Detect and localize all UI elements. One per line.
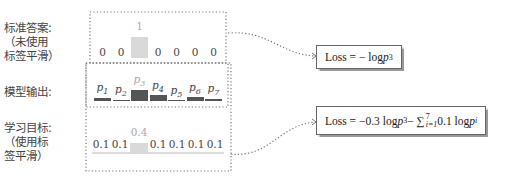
model-cell: p4 (150, 79, 167, 101)
gold-row: 0 0 1 0 0 0 0 (94, 20, 222, 58)
model-cell: p6 (187, 79, 204, 101)
target-row: 0.1 0.1 0.4 0.1 0.1 0.1 0.1 (92, 129, 224, 154)
sum-limits: 7i=1 (426, 113, 438, 129)
sum-symbol: − ∑ (407, 115, 425, 127)
loss-box-smoothed: Loss = −0.3 log p3 − ∑7i=1 0.1 log pi (316, 106, 486, 135)
connectors (0, 0, 522, 180)
model-cell: p5 (168, 79, 185, 101)
target-cell: 0.1 (149, 129, 167, 154)
gold-cell: 0 (187, 46, 204, 58)
loss-box-hard: Loss = − log p3 (316, 45, 402, 69)
model-cell: p1 (94, 79, 111, 101)
loss-text: 0.1 log (437, 115, 469, 127)
target-cell-highlight: 0.4 (130, 129, 148, 154)
target-cell: 0.1 (92, 129, 110, 154)
arrow-top (228, 33, 316, 56)
model-row: p1 p2 p3 p4 p5 p6 p7 (94, 79, 222, 101)
gold-cell-highlight: 1 (131, 20, 148, 58)
arrow-bottom (231, 122, 316, 154)
loss-sub: i (475, 116, 477, 125)
loss-sub: 3 (389, 53, 393, 62)
gold-cell: 0 (113, 46, 130, 58)
gold-cell: 0 (150, 46, 167, 58)
target-cell: 0.1 (168, 129, 186, 154)
gold-cell: 0 (168, 46, 185, 58)
gold-bar (131, 37, 148, 58)
target-cell: 0.1 (187, 129, 205, 154)
sum-lower: i=1 (426, 121, 438, 129)
gold-cell: 0 (94, 46, 111, 58)
model-cell: p2 (113, 79, 130, 101)
model-cell: p7 (205, 79, 222, 101)
gold-cell: 0 (205, 46, 222, 58)
target-cell: 0.1 (206, 129, 224, 154)
loss-text: Loss = − log (325, 51, 383, 63)
loss-text: Loss = −0.3 log (325, 115, 397, 127)
target-cell: 0.1 (111, 129, 129, 154)
model-cell-highlight: p3 (131, 79, 148, 101)
